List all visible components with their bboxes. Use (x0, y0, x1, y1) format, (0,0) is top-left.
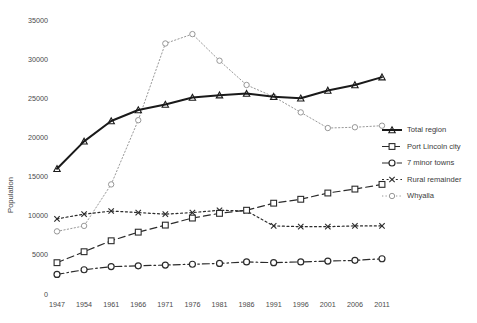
legend-marker (389, 160, 395, 166)
legend-item-label: Port Lincoln city (407, 142, 461, 151)
data-point-1947 (54, 229, 59, 234)
series-whyalla (54, 31, 384, 234)
data-point-1954 (81, 249, 87, 255)
x-tick-1981: 1981 (212, 300, 228, 309)
data-point-1961 (108, 182, 113, 187)
legend-item-rural-remainder[interactable]: Rural remainder (382, 175, 462, 184)
data-point-1947 (54, 271, 60, 277)
legend-marker (389, 144, 395, 150)
legend-marker (389, 193, 394, 198)
legend-item-label: Total region (407, 125, 446, 134)
data-point-1986 (244, 259, 250, 265)
data-point-1966 (135, 229, 141, 235)
legend-item-total-region[interactable]: Total region (382, 125, 446, 134)
x-tick-2001: 2001 (320, 300, 336, 309)
x-tick-1947: 1947 (49, 300, 65, 309)
data-point-1976 (189, 261, 195, 267)
data-point-1971 (162, 262, 168, 268)
data-point-1954 (81, 223, 86, 228)
legend-item-whyalla[interactable]: Whyalla (382, 191, 435, 200)
y-tick-15000: 15000 (28, 172, 48, 181)
series-total-region (54, 74, 385, 172)
data-point-1996 (298, 110, 303, 115)
data-point-2001 (325, 125, 330, 130)
data-point-1991 (271, 260, 277, 266)
x-tick-2006: 2006 (347, 300, 363, 309)
data-point-1991 (271, 200, 277, 206)
x-tick-1954: 1954 (76, 300, 92, 309)
data-point-1996 (298, 196, 304, 202)
data-point-2006 (352, 257, 358, 263)
chart-legend: Total regionPort Lincoln city7 minor tow… (382, 125, 462, 200)
series-port-lincoln-city (54, 182, 385, 266)
legend-item-label: 7 minor towns (407, 158, 454, 167)
data-point-1981 (217, 210, 223, 216)
chart-canvas: 05000100001500020000250003000035000 1947… (0, 0, 477, 323)
data-point-2011 (379, 123, 384, 128)
data-point-1981 (217, 58, 222, 63)
data-point-1986 (244, 82, 249, 87)
y-tick-5000: 5000 (32, 250, 48, 259)
y-tick-10000: 10000 (28, 211, 48, 220)
data-point-1986 (244, 207, 250, 213)
y-tick-20000: 20000 (28, 133, 48, 142)
data-point-2006 (352, 186, 358, 192)
x-tick-1961: 1961 (103, 300, 119, 309)
data-point-1996 (298, 259, 304, 265)
data-point-2001 (325, 258, 331, 264)
series-line (57, 184, 382, 262)
legend-item-label: Whyalla (407, 191, 435, 200)
legend-item-7-minor-towns[interactable]: 7 minor towns (382, 158, 454, 167)
y-tick-35000: 35000 (28, 16, 48, 25)
data-point-1976 (190, 215, 196, 221)
x-tick-1996: 1996 (293, 300, 309, 309)
data-point-1976 (190, 31, 195, 36)
y-axis-tick-labels: 05000100001500020000250003000035000 (28, 16, 48, 299)
x-tick-1986: 1986 (239, 300, 255, 309)
data-point-1966 (136, 118, 141, 123)
data-point-2011 (379, 182, 385, 188)
x-tick-1966: 1966 (130, 300, 146, 309)
data-point-1981 (217, 260, 223, 266)
data-point-1954 (81, 267, 87, 273)
series-layer (54, 31, 385, 277)
x-axis-tick-labels: 1947195419611966197119761981198619911996… (49, 300, 390, 309)
legend-marker (389, 177, 394, 182)
y-tick-25000: 25000 (28, 94, 48, 103)
legend-item-port-lincoln-city[interactable]: Port Lincoln city (382, 142, 461, 151)
data-point-2006 (352, 125, 357, 130)
x-tick-2011: 2011 (374, 300, 389, 309)
population-line-chart: 05000100001500020000250003000035000 1947… (0, 0, 477, 323)
legend-item-label: Rural remainder (407, 175, 462, 184)
y-axis-title: Population (6, 177, 15, 213)
x-tick-1991: 1991 (266, 300, 282, 309)
data-point-1961 (108, 238, 114, 244)
data-point-1971 (162, 222, 168, 228)
y-tick-0: 0 (44, 290, 48, 299)
data-point-1966 (135, 263, 141, 269)
y-tick-30000: 30000 (28, 55, 48, 64)
data-point-2001 (325, 190, 331, 196)
data-point-2011 (379, 256, 385, 262)
x-tick-1976: 1976 (184, 300, 200, 309)
data-point-1971 (163, 41, 168, 46)
data-point-1961 (108, 264, 114, 270)
x-tick-1971: 1971 (157, 300, 173, 309)
series-7-minor-towns (54, 256, 385, 278)
data-point-1947 (54, 260, 60, 266)
